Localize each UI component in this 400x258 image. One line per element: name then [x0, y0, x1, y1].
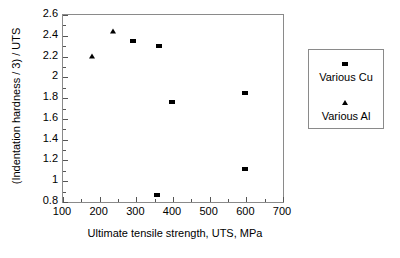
legend-square-glyph	[342, 62, 348, 66]
y-axis-tick-label: 2	[22, 70, 58, 81]
x-axis-minor-tick	[228, 199, 229, 202]
x-axis-tick-label: 200	[79, 206, 119, 217]
y-axis-tick	[63, 202, 68, 203]
y-axis-tick-label: 1	[22, 174, 58, 185]
y-axis-title: (Indentation hardness / 3) / UTS	[10, 6, 22, 206]
y-axis-tick-label: 2.2	[22, 50, 58, 61]
x-axis-tick	[210, 197, 211, 202]
legend-triangle-glyph	[342, 100, 348, 105]
y-axis-minor-tick	[63, 150, 66, 151]
y-axis-tick	[63, 119, 68, 120]
data-point-triangle	[89, 53, 95, 58]
x-axis-tick	[173, 197, 174, 202]
legend-marker-triangle-icon	[341, 99, 351, 107]
x-axis-tick	[283, 197, 284, 202]
y-axis-tick-label: 1.4	[22, 133, 58, 144]
y-axis-tick	[63, 77, 68, 78]
x-axis-tick-label: 700	[262, 206, 302, 217]
y-axis-tick	[63, 160, 68, 161]
y-axis-tick-label: 1.2	[22, 153, 58, 164]
x-axis-tick-label: 100	[42, 206, 82, 217]
x-axis-title: Ultimate tensile strength, UTS, MPa	[44, 227, 306, 239]
x-axis-minor-tick	[191, 199, 192, 202]
y-axis-minor-tick	[63, 192, 66, 193]
x-axis-tick-label: 600	[225, 206, 265, 217]
x-axis-tick-label: 500	[189, 206, 229, 217]
data-point-square	[154, 193, 160, 197]
data-point-square	[242, 91, 248, 95]
x-axis-tick-label: 300	[115, 206, 155, 217]
plot-area	[63, 15, 283, 202]
x-axis-tick-label: 400	[152, 206, 192, 217]
legend-label: Various Al	[309, 110, 383, 122]
plot-frame	[62, 14, 284, 203]
data-point-square	[156, 44, 162, 48]
x-axis-tick	[246, 197, 247, 202]
x-axis-tick	[100, 197, 101, 202]
y-axis-tick-label: 1.6	[22, 112, 58, 123]
x-axis-minor-tick	[265, 199, 266, 202]
y-axis-minor-tick	[63, 25, 66, 26]
y-axis-minor-tick	[63, 129, 66, 130]
legend-label: Various Cu	[309, 71, 383, 83]
chart-legend: Various CuVarious Al	[308, 49, 384, 129]
y-axis-tick-label: 2.4	[22, 29, 58, 40]
x-axis-minor-tick	[81, 199, 82, 202]
y-axis-tick	[63, 98, 68, 99]
y-axis-tick-label: 1.8	[22, 91, 58, 102]
y-axis-tick-label: 2.6	[22, 8, 58, 19]
y-axis-tick	[63, 36, 68, 37]
y-axis-minor-tick	[63, 171, 66, 172]
y-axis-minor-tick	[63, 88, 66, 89]
y-axis-tick	[63, 15, 68, 16]
x-axis-minor-tick	[118, 199, 119, 202]
data-point-square	[130, 39, 136, 43]
y-axis-minor-tick	[63, 109, 66, 110]
x-axis-tick	[136, 197, 137, 202]
data-point-triangle	[110, 28, 116, 33]
y-axis-tick	[63, 57, 68, 58]
y-axis-minor-tick	[63, 46, 66, 47]
legend-marker-square-icon	[341, 60, 351, 68]
y-axis-tick	[63, 140, 68, 141]
y-axis-tick	[63, 181, 68, 182]
data-point-square	[242, 167, 248, 171]
data-point-square	[169, 100, 175, 104]
x-axis-minor-tick	[155, 199, 156, 202]
y-axis-minor-tick	[63, 67, 66, 68]
x-axis-tick	[63, 197, 64, 202]
chart-page: Ultimate tensile strength, UTS, MPa (Ind…	[0, 0, 400, 258]
